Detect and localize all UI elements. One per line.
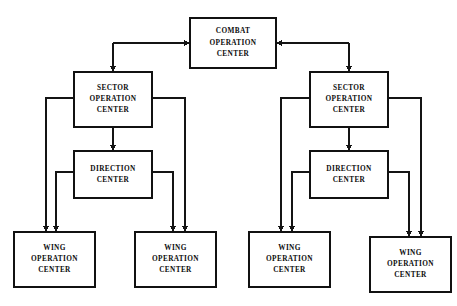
wing-operation-center-3[interactable]: WINGOPERATIONCENTER bbox=[249, 232, 330, 287]
edge-soc-right-to-coc bbox=[276, 40, 349, 47]
sector-operation-center-left-label-line-2: OPERATION bbox=[90, 94, 137, 103]
wing-operation-center-4[interactable]: WINGOPERATIONCENTER bbox=[370, 237, 451, 292]
edge-dc-right-to-woc-3 bbox=[289, 172, 310, 232]
direction-center-right-label-line-1: DIRECTION bbox=[326, 164, 372, 173]
combat-operation-center-label-line-3: CENTER bbox=[217, 49, 250, 58]
combat-operation-center-label-line-1: COMBAT bbox=[216, 26, 250, 35]
sector-operation-center-right-label-line-1: SECTOR bbox=[333, 83, 365, 92]
direction-center-right[interactable]: DIRECTIONCENTER bbox=[310, 151, 388, 198]
edge-dc-left-to-woc-2 bbox=[152, 172, 176, 232]
combat-operation-center-label-line-2: OPERATION bbox=[210, 38, 257, 47]
wing-operation-center-3-label-line-1: WING bbox=[278, 243, 300, 252]
wing-operation-center-3-label-line-3: CENTER bbox=[273, 265, 306, 274]
edge-soc-right-to-woc-3 bbox=[278, 98, 310, 232]
edge-soc-left-to-coc bbox=[113, 40, 190, 47]
wing-operation-center-2-label-line-2: OPERATION bbox=[152, 254, 199, 263]
wing-operation-center-2-label-line-1: WING bbox=[164, 243, 186, 252]
sector-operation-center-right[interactable]: SECTOROPERATIONCENTER bbox=[310, 72, 388, 127]
edge-soc-left-to-woc-1 bbox=[43, 98, 74, 232]
sector-operation-center-right-label-line-3: CENTER bbox=[333, 105, 366, 114]
edge-soc-right-to-woc-4 bbox=[388, 98, 424, 237]
sector-operation-center-left-label-line-3: CENTER bbox=[97, 105, 130, 114]
sector-operation-center-left-label-line-1: SECTOR bbox=[97, 83, 129, 92]
edge-soc-right-to-dc-right bbox=[346, 127, 353, 151]
edge-dc-left-to-woc-1 bbox=[53, 172, 74, 232]
direction-center-left-label-line-2: CENTER bbox=[97, 175, 130, 184]
wing-operation-center-4-label-line-1: WING bbox=[399, 248, 421, 257]
wing-operation-center-2-label-line-3: CENTER bbox=[159, 265, 192, 274]
wing-operation-center-1-label-line-2: OPERATION bbox=[31, 254, 78, 263]
wing-operation-center-2[interactable]: WINGOPERATIONCENTER bbox=[135, 232, 216, 287]
direction-center-left-label-line-1: DIRECTION bbox=[90, 164, 136, 173]
edge-soc-left-to-dc-left bbox=[110, 127, 117, 151]
edge-layer bbox=[43, 40, 425, 237]
block-diagram-canvas: COMBATOPERATIONCENTERSECTOROPERATIONCENT… bbox=[0, 0, 457, 306]
wing-operation-center-3-label-line-2: OPERATION bbox=[266, 254, 313, 263]
edge-coc-to-soc-right bbox=[346, 43, 353, 72]
wing-operation-center-1[interactable]: WINGOPERATIONCENTER bbox=[14, 232, 95, 287]
node-layer: COMBATOPERATIONCENTERSECTOROPERATIONCENT… bbox=[14, 18, 451, 292]
wing-operation-center-4-label-line-3: CENTER bbox=[394, 270, 427, 279]
wing-operation-center-1-label-line-1: WING bbox=[43, 243, 65, 252]
wing-operation-center-4-label-line-2: OPERATION bbox=[387, 259, 434, 268]
edge-dc-right-to-woc-4 bbox=[388, 172, 412, 237]
direction-center-right-label-line-2: CENTER bbox=[333, 175, 366, 184]
sector-operation-center-left[interactable]: SECTOROPERATIONCENTER bbox=[74, 72, 152, 127]
direction-center-left[interactable]: DIRECTIONCENTER bbox=[74, 151, 152, 198]
edge-soc-left-to-woc-2 bbox=[152, 98, 188, 232]
edge-coc-to-soc-left bbox=[110, 43, 117, 72]
sector-operation-center-right-label-line-2: OPERATION bbox=[326, 94, 373, 103]
combat-operation-center[interactable]: COMBATOPERATIONCENTER bbox=[190, 18, 276, 68]
wing-operation-center-1-label-line-3: CENTER bbox=[38, 265, 71, 274]
